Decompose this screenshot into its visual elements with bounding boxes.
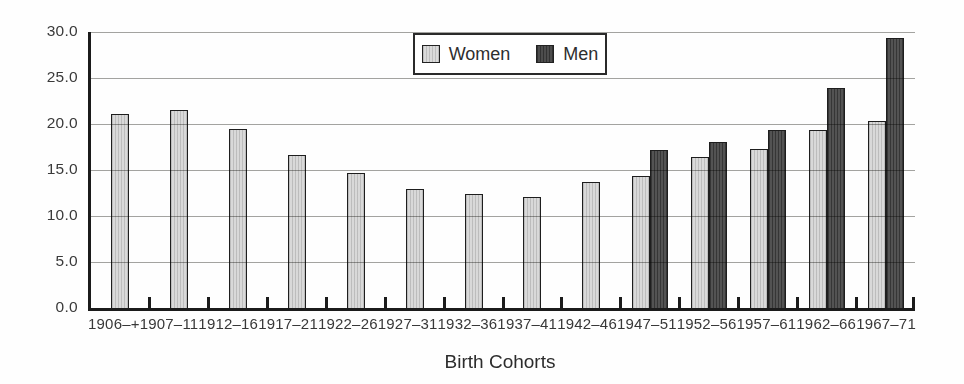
y-axis-label: 5.0	[6, 252, 78, 270]
bar-group	[347, 173, 365, 308]
x-axis-label: 1952–56	[677, 315, 737, 332]
category-tick	[266, 297, 269, 308]
bar-group	[111, 114, 129, 308]
category-tick	[855, 297, 858, 308]
category-tick	[443, 297, 446, 308]
bar-group	[465, 194, 483, 308]
x-axis-title: Birth Cohorts	[88, 351, 912, 373]
bar-group	[691, 142, 727, 308]
men-bar	[827, 88, 845, 308]
women-bar	[868, 121, 886, 308]
men-bar	[768, 130, 786, 308]
men-bar	[709, 142, 727, 308]
women-bar	[465, 194, 483, 308]
y-axis-label: 25.0	[6, 68, 78, 86]
category-slot	[797, 32, 856, 308]
men-bar	[886, 38, 904, 308]
category-tick	[502, 297, 505, 308]
women-bar	[691, 157, 709, 308]
category-tick	[148, 297, 151, 308]
category-tick	[619, 297, 622, 308]
y-axis-label: 30.0	[6, 22, 78, 40]
category-tick	[912, 297, 915, 308]
men-bar	[650, 150, 668, 308]
bar-group	[582, 182, 600, 308]
bar-group	[229, 129, 247, 308]
x-axis-label: 1957–61	[737, 315, 797, 332]
category-slot	[268, 32, 327, 308]
men-swatch-icon	[536, 45, 554, 63]
legend-item-men: Men	[536, 44, 598, 65]
category-slot	[856, 32, 915, 308]
y-axis-label: 20.0	[6, 114, 78, 132]
bar-group	[632, 150, 668, 308]
women-bar	[170, 110, 188, 308]
y-axis-label: 15.0	[6, 160, 78, 178]
y-axis-label: 10.0	[6, 206, 78, 224]
women-bar	[750, 149, 768, 308]
category-tick	[678, 297, 681, 308]
bar-group	[288, 155, 306, 308]
x-axis-label: 1942–46	[557, 315, 617, 332]
category-slot	[326, 32, 385, 308]
category-tick	[384, 297, 387, 308]
legend: Women Men	[413, 33, 607, 75]
women-bar	[582, 182, 600, 308]
category-tick	[796, 297, 799, 308]
x-axis-labels: 1906–+1907–111912–161917–211922–261927–3…	[88, 315, 912, 332]
women-bar	[347, 173, 365, 308]
y-axis-label: 0.0	[6, 298, 78, 316]
legend-label-women: Women	[449, 44, 511, 65]
bar-group	[750, 130, 786, 308]
bar-group	[523, 197, 541, 308]
x-axis-label: 1962–66	[796, 315, 856, 332]
x-axis-label: 1967–71	[856, 315, 916, 332]
x-axis-label: 1937–41	[497, 315, 557, 332]
legend-item-women: Women	[422, 44, 511, 65]
category-slot	[621, 32, 680, 308]
bar-group	[809, 88, 845, 308]
women-bar	[229, 129, 247, 308]
x-axis-label: 1927–31	[378, 315, 438, 332]
category-slot	[738, 32, 797, 308]
category-tick	[207, 297, 210, 308]
x-axis-label: 1947–51	[617, 315, 677, 332]
category-slot	[150, 32, 209, 308]
women-bar	[809, 130, 827, 308]
bar-chart-figure: 1906–+1907–111912–161917–211922–261927–3…	[0, 0, 964, 384]
women-swatch-icon	[422, 45, 440, 63]
x-axis-label: 1907–11	[140, 315, 199, 332]
category-tick	[325, 297, 328, 308]
legend-label-men: Men	[563, 44, 598, 65]
women-bar	[632, 176, 650, 308]
bar-group	[406, 189, 424, 308]
bar-group	[868, 38, 904, 308]
x-axis-label: 1906–+	[88, 315, 140, 332]
category-tick	[560, 297, 563, 308]
x-axis-label: 1922–26	[318, 315, 378, 332]
women-bar	[288, 155, 306, 308]
category-slot	[209, 32, 268, 308]
x-axis-label: 1932–36	[438, 315, 498, 332]
x-axis-label: 1917–21	[258, 315, 318, 332]
x-axis-label: 1912–16	[198, 315, 258, 332]
category-slot	[680, 32, 739, 308]
women-bar	[111, 114, 129, 308]
women-bar	[406, 189, 424, 308]
bar-group	[170, 110, 188, 308]
women-bar	[523, 197, 541, 308]
category-tick	[737, 297, 740, 308]
category-slot	[91, 32, 150, 308]
